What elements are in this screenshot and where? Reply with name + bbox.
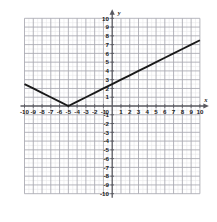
y-tick-label: -2 xyxy=(103,120,109,127)
graph-canvas: -10-9-8-7-6-5-4-3-2-112345678910-10-9-8-… xyxy=(0,0,217,222)
x-tick-label: -3 xyxy=(83,108,89,115)
x-tick-label: 10 xyxy=(196,108,203,115)
x-tick-label: -5 xyxy=(66,108,72,115)
y-tick-label: -10 xyxy=(100,190,110,197)
y-tick-label: -9 xyxy=(103,181,109,188)
y-tick-label: -4 xyxy=(103,137,109,144)
x-tick-label: -8 xyxy=(39,108,45,115)
x-axis-label: x xyxy=(203,96,208,103)
y-tick-label: 10 xyxy=(102,15,109,22)
arrow-up-icon xyxy=(110,9,115,15)
y-tick-label: 7 xyxy=(106,41,110,48)
origin-label: 0 xyxy=(106,108,110,115)
x-tick-label: 4 xyxy=(146,108,150,115)
y-tick-label: -5 xyxy=(103,146,109,153)
x-tick-label: 9 xyxy=(189,108,193,115)
y-tick-label: -6 xyxy=(103,155,109,162)
coordinate-graph-figure: -10-9-8-7-6-5-4-3-2-112345678910-10-9-8-… xyxy=(0,0,217,222)
x-tick-label: 8 xyxy=(181,108,185,115)
arrow-right-icon xyxy=(203,103,209,108)
y-tick-label: -3 xyxy=(103,129,109,136)
x-tick-label: -4 xyxy=(74,108,80,115)
x-tick-label: -9 xyxy=(31,108,37,115)
x-tick-label: 7 xyxy=(172,108,176,115)
x-tick-label: -6 xyxy=(57,108,63,115)
x-tick-label: 6 xyxy=(163,108,167,115)
x-tick-label: 3 xyxy=(137,108,141,115)
x-tick-label: -10 xyxy=(20,108,30,115)
x-tick-label: 5 xyxy=(154,108,158,115)
y-tick-label: 3 xyxy=(106,76,110,83)
y-tick-label: 5 xyxy=(106,58,110,65)
y-tick-label: -8 xyxy=(103,172,109,179)
y-tick-label: 6 xyxy=(106,50,110,57)
x-tick-label: 2 xyxy=(128,108,132,115)
x-tick-label: -2 xyxy=(92,108,98,115)
y-tick-label: 8 xyxy=(106,32,110,39)
y-tick-label: 9 xyxy=(106,23,110,30)
x-tick-label: 1 xyxy=(119,108,123,115)
y-tick-label: -7 xyxy=(103,164,109,171)
y-tick-label: 4 xyxy=(106,67,110,74)
y-axis-label: y xyxy=(117,9,121,16)
x-tick-label: -7 xyxy=(48,108,54,115)
y-tick-label: 1 xyxy=(106,93,110,100)
